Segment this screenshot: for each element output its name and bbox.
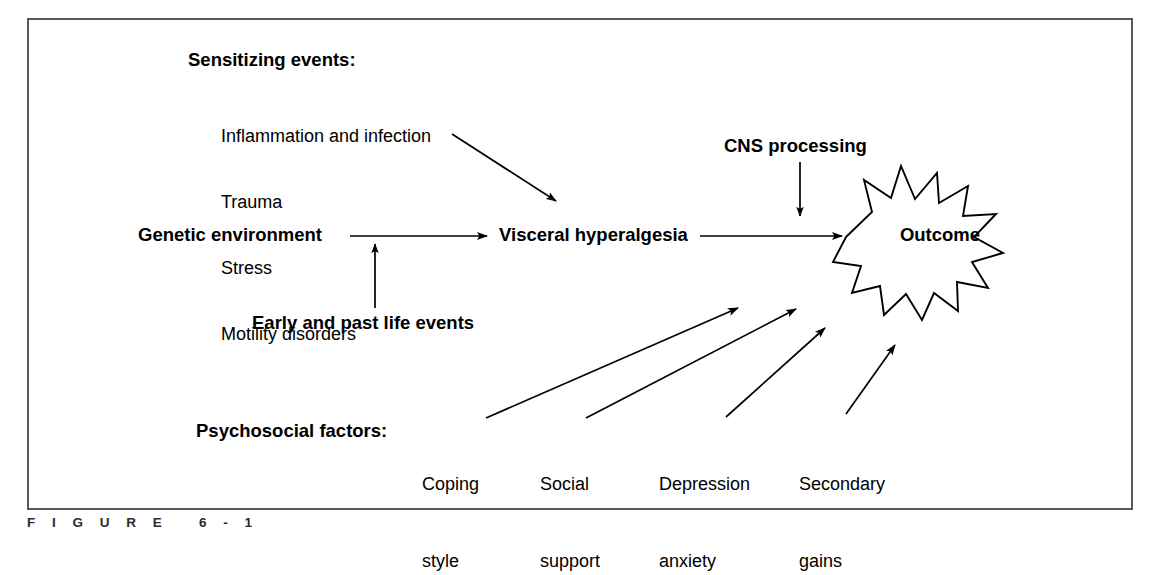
arrow-secondary-gains-to-outcome bbox=[846, 345, 895, 414]
factor-line: anxiety bbox=[659, 549, 750, 575]
factor-line: style bbox=[422, 549, 479, 575]
factor-line: Secondary bbox=[799, 472, 885, 498]
arrow-coping-style-to-outcome bbox=[486, 308, 738, 418]
list-item: Trauma bbox=[221, 190, 431, 216]
arrow-depression-anxiety-to-outcome bbox=[726, 328, 825, 417]
psychosocial-factor-social-support: Social support bbox=[540, 421, 600, 575]
list-item: Stress bbox=[221, 256, 431, 282]
factor-line: Coping bbox=[422, 472, 479, 498]
psychosocial-factors-title: Psychosocial factors: bbox=[196, 421, 387, 442]
arrow-sensitizing-to-visceral bbox=[452, 134, 556, 201]
psychosocial-factor-coping-style: Coping style bbox=[422, 421, 479, 575]
sensitizing-events-title: Sensitizing events: bbox=[188, 50, 356, 71]
node-visceral-hyperalgesia: Visceral hyperalgesia bbox=[499, 225, 688, 246]
figure-caption: F I G U R E 6 - 1 bbox=[27, 515, 259, 530]
node-outcome: Outcome bbox=[880, 224, 1000, 246]
factor-line: gains bbox=[799, 549, 885, 575]
factor-line: Depression bbox=[659, 472, 750, 498]
list-item: Inflammation and infection bbox=[221, 124, 431, 150]
psychosocial-factor-secondary-gains: Secondary gains bbox=[799, 421, 885, 575]
node-cns-processing: CNS processing bbox=[724, 136, 867, 157]
factor-line: Social bbox=[540, 472, 600, 498]
psychosocial-factor-depression-anxiety: Depression anxiety bbox=[659, 421, 750, 575]
arrow-social-support-to-outcome bbox=[586, 309, 796, 418]
factor-line: support bbox=[540, 549, 600, 575]
node-early-and-past-life-events: Early and past life events bbox=[252, 313, 474, 334]
node-genetic-environment: Genetic environment bbox=[138, 225, 322, 246]
